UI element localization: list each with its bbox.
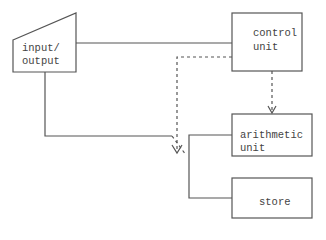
io-label-line2: output: [22, 55, 60, 68]
control-label-line1: control: [253, 27, 297, 40]
arithmetic-label-line2: unit: [240, 142, 265, 155]
au-store-bus-line: [189, 135, 232, 198]
arithmetic-label-line1: arithmetic: [240, 129, 303, 142]
control-label-line2: unit: [253, 41, 278, 54]
io-switch-line: [45, 72, 172, 136]
control-switch-dashed: [177, 57, 232, 152]
store-label: store: [259, 196, 291, 209]
io-label-line1: input/: [22, 42, 60, 55]
switch-dashed: [172, 136, 186, 155]
